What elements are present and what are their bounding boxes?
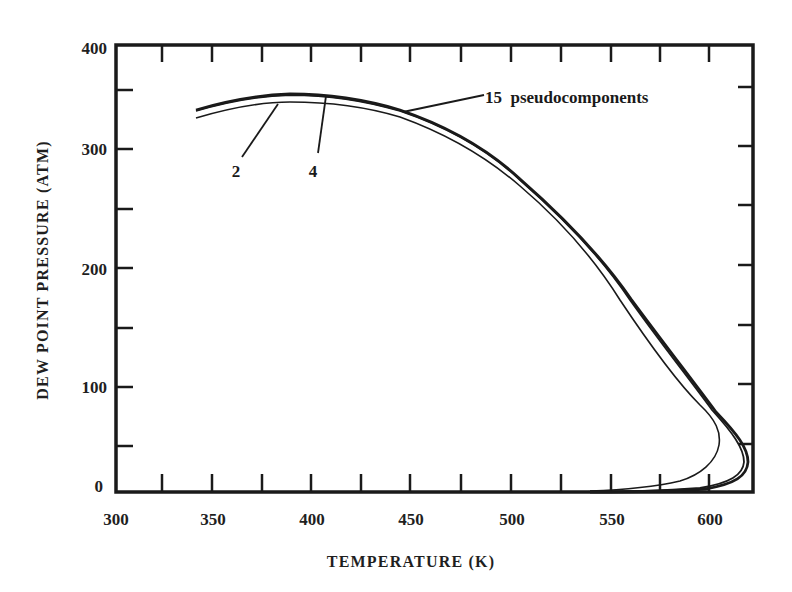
x-axis-title: TEMPERATURE (K) — [327, 553, 495, 571]
leader-line-4 — [318, 96, 326, 153]
plot-frame — [116, 45, 753, 492]
x-tick-label: 450 — [398, 510, 424, 529]
y-axis-ticks-left — [116, 90, 133, 446]
leader-line-15 — [403, 95, 484, 112]
curve-4-components — [196, 95, 744, 492]
curve-15-pseudocomponents — [196, 94, 748, 492]
y-axis-title: DEW POINT PRESSURE (ATM) — [34, 140, 52, 400]
y-tick-label: 300 — [82, 140, 108, 159]
curve-2-components — [196, 102, 719, 491]
y-axis-ticks-right — [738, 87, 753, 444]
y-tick-label: 100 — [82, 378, 108, 397]
curve-label-2: 2 — [232, 162, 241, 181]
x-tick-label: 500 — [499, 510, 525, 529]
y-tick-labels: 0 100 200 300 400 — [82, 39, 108, 496]
x-tick-label: 550 — [599, 510, 625, 529]
x-axis-ticks-top — [162, 45, 709, 62]
dew-point-chart: 300 350 400 450 500 550 600 0 100 200 30… — [0, 0, 792, 592]
curve-label-4: 4 — [309, 162, 318, 181]
y-tick-label: 0 — [95, 477, 104, 496]
leader-line-2 — [242, 104, 278, 157]
x-tick-label: 400 — [299, 510, 325, 529]
x-tick-label: 600 — [697, 510, 723, 529]
y-tick-label: 400 — [82, 39, 108, 58]
y-tick-label: 200 — [82, 260, 108, 279]
curve-label-15-pseudocomponents: 15 pseudocomponents — [485, 88, 649, 107]
x-tick-label: 300 — [103, 510, 129, 529]
x-tick-label: 350 — [200, 510, 226, 529]
x-tick-labels: 300 350 400 450 500 550 600 — [103, 510, 723, 529]
